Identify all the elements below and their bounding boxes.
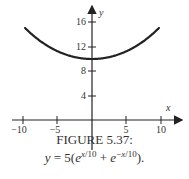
figure-caption-formula: y = 5(ex/10 + e−x/10). (0, 147, 189, 165)
y-axis-label: y (98, 7, 104, 18)
y-tick-label: 16 (76, 16, 86, 27)
figure-caption-title: FIGURE 5.37: (0, 132, 189, 147)
y-tick-label: 8 (81, 65, 86, 76)
y-tick-label: 12 (76, 41, 86, 52)
y-tick-label: 4 (81, 90, 86, 101)
x-axis-label: x (165, 102, 171, 113)
